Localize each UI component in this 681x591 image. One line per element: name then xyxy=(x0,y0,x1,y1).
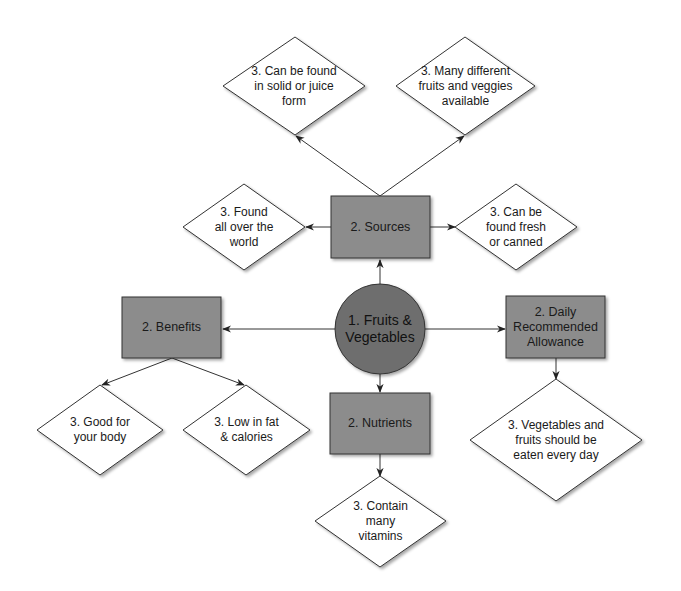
label-sources: 2. Sources xyxy=(331,196,430,258)
label-every-day: 3. Vegetables and fruits should be eaten… xyxy=(470,411,642,469)
edge-benefits-good xyxy=(102,358,172,385)
label-many-different: 3. Many different fruits and veggies ava… xyxy=(396,57,535,115)
label-all-over-world: 3. Found all over the world xyxy=(183,198,305,256)
edge-benefits-lowfat xyxy=(172,358,244,385)
label-vitamins: 3. Contain many vitamins xyxy=(315,492,446,550)
edge-sources-solid-juice xyxy=(296,136,380,196)
label-nutrients: 2. Nutrients xyxy=(330,393,430,454)
center-label: 1. Fruits & Vegetables xyxy=(335,299,425,359)
edge-sources-many-different xyxy=(380,136,464,196)
label-solid-juice: 3. Can be found in solid or juice form xyxy=(223,57,365,115)
label-low-fat: 3. Low in fat & calories xyxy=(183,410,310,450)
label-daily-allowance: 2. Daily Recommended Allowance xyxy=(506,296,605,358)
label-benefits: 2. Benefits xyxy=(122,297,221,358)
label-fresh-canned: 3. Can be found fresh or canned xyxy=(455,198,577,256)
label-good-for-body: 3. Good for your body xyxy=(37,410,163,450)
